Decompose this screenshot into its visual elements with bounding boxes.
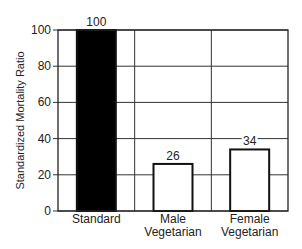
- y-tick-label: 0: [44, 204, 51, 218]
- x-category-label: Female: [230, 212, 270, 226]
- x-category-label: Male: [160, 212, 186, 226]
- y-tick-label: 80: [38, 59, 52, 73]
- x-category-label: Vegetarian: [221, 225, 278, 239]
- bar-chart: 020406080100100Standard26MaleVegetarian3…: [0, 0, 302, 249]
- y-tick-label: 20: [38, 168, 52, 182]
- bar-female-vegetarian: [230, 149, 269, 211]
- y-tick-label: 40: [38, 132, 52, 146]
- value-label: 100: [86, 15, 106, 29]
- value-label: 26: [166, 149, 180, 163]
- bars: [77, 30, 269, 211]
- x-category-label: Vegetarian: [144, 225, 201, 239]
- y-tick-label: 100: [31, 23, 51, 37]
- bar-standard: [77, 30, 116, 211]
- bar-male-vegetarian: [154, 164, 193, 211]
- x-category-label: Standard: [72, 212, 121, 226]
- value-label: 34: [243, 134, 257, 148]
- y-axis-title: Standardized Mortality Ratio: [14, 51, 26, 189]
- y-tick-label: 60: [38, 95, 52, 109]
